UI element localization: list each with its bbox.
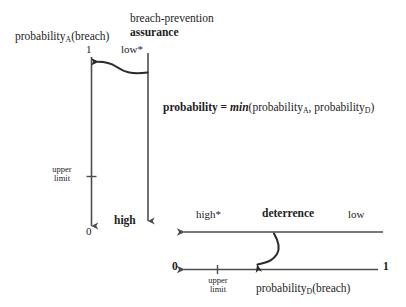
assurance-title-line2-text: assurance [130,26,179,38]
formula-close-text: ) [370,101,374,113]
diagram-vector-layer [0,0,406,307]
probability-d-upper-limit-label: upper limit [197,276,239,294]
probability-d-left-value: 0 [172,260,178,272]
probability-d-left-value-text: 0 [172,260,178,272]
probability-a-upper-limit-label: upper limit [41,165,83,183]
probability-a-bottom-value: 0 [86,226,92,238]
formula-mid-text: , probability [309,101,365,113]
deterrence-title: deterrence [262,207,314,219]
probability-d-upper-limit-line2: limit [210,284,226,294]
probability-a-top-value: 1 [86,44,92,56]
probability-d-axis-title-main: probability [256,282,306,294]
assurance-title-line2: assurance [130,26,179,38]
deterrence-left-label-text: high* [196,208,221,220]
probability-a-axis-title: probabilityA(breach) [15,30,109,44]
probability-a-bottom-value-text: 0 [86,225,92,237]
assurance-top-label-text: low* [121,43,143,55]
deterrence-title-text: deterrence [262,207,314,219]
deterrence-right-label-text: low [348,208,365,220]
assurance-top-label: low* [121,44,143,56]
probability-d-axis-title: probabilityD(breach) [256,282,350,296]
assurance-title-line1-text: breach-prevention [130,12,214,24]
assurance-to-probability-curve-arrow [98,62,148,73]
deterrence-right-label: low [348,209,365,221]
probability-a-top-value-text: 1 [86,43,92,55]
deterrence-to-probability-curve-arrow [258,234,279,265]
deterrence-left-label: high* [196,209,221,221]
probability-a-upper-limit-line2: limit [54,173,70,183]
formula-lead-text: probability = [163,101,230,113]
formula-open-text: (probability [249,101,303,113]
probability-d-axis-title-tail: (breach) [312,282,350,294]
assurance-bottom-label-text: high [114,214,136,226]
assurance-title-line1: breach-prevention [130,12,214,24]
probability-d-right-value-text: 1 [383,260,389,272]
diagram-canvas: breach-prevention assurance probabilityA… [0,0,406,307]
probability-a-axis-title-main: probability [15,30,65,42]
formula-min-operator: min [230,101,249,113]
assurance-bottom-label: high [114,214,136,226]
probability-d-right-value: 1 [383,260,389,272]
probability-formula: probability = min(probabilityA, probabil… [163,101,374,115]
probability-a-axis-title-tail: (breach) [71,30,109,42]
